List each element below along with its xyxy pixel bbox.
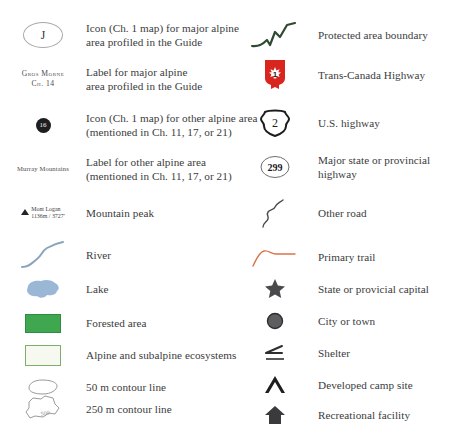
state-highway-circle-icon: 299 xyxy=(232,150,318,184)
legend-label-line: Forested area xyxy=(86,316,147,330)
legend-label-line: Trans-Canada Highway xyxy=(318,68,425,82)
legend-label: State or provicial capital xyxy=(318,282,433,296)
legend-label: Alpine and subalpine ecosystems xyxy=(86,348,240,362)
legend-label: Mountain peak xyxy=(86,206,158,220)
trans-canada-shield-icon: 1 xyxy=(232,58,318,92)
legend-row-river: River xyxy=(0,238,232,272)
legend-row-campsite: Developed camp site xyxy=(232,368,464,402)
other-alpine-dot-shape: 16 xyxy=(36,118,51,133)
legend-label-line: City or town xyxy=(318,314,375,328)
other-alpine-dot-number: 16 xyxy=(40,122,47,129)
legend-label-line: Lake xyxy=(86,282,109,296)
us-highway-route-number: 2 xyxy=(272,116,278,130)
forested-area-swatch xyxy=(0,306,86,340)
legend-left-column: J Icon (Ch. 1 map) for major alpine area… xyxy=(0,0,232,435)
recreational-facility-icon xyxy=(232,398,318,432)
other-road-line-icon xyxy=(232,196,318,230)
legend-row-shelter: Shelter xyxy=(232,336,464,370)
legend-label: River xyxy=(86,248,115,262)
contour-250m-value: 500 xyxy=(40,410,50,417)
lake-shape-icon xyxy=(0,272,86,306)
mountain-peak-elevation: 1136m / 3727' xyxy=(31,213,65,220)
forested-area-color-box xyxy=(25,314,61,333)
trans-canada-route-number: 1 xyxy=(273,70,278,79)
legend-label: Label for major alpine area profiled in … xyxy=(86,65,206,93)
other-alpine-label-text: Murray Mountains xyxy=(17,165,69,173)
legend-label-line: 250 m contour line xyxy=(86,402,172,416)
legend-right-column: Protected area boundary 1 Trans-Canada H… xyxy=(232,0,464,435)
major-alpine-label-text: Gros Morne Ch. 14 xyxy=(22,69,64,88)
legend-label: City or town xyxy=(318,314,379,328)
other-alpine-dot-icon: 16 xyxy=(0,108,86,142)
legend-label-line: U.S. highway xyxy=(318,116,380,130)
legend-row-other-alpine-label: Murray Mountains Label for other alpine … xyxy=(0,152,232,186)
legend-row-lake: Lake xyxy=(0,272,232,306)
mountain-peak-name: Mont Logan xyxy=(31,206,65,213)
alpine-ecosystem-swatch xyxy=(0,338,86,372)
map-legend: J Icon (Ch. 1 map) for major alpine area… xyxy=(0,0,464,435)
legend-label-line: Major state or provincial xyxy=(318,153,430,167)
legend-row-forested-area: Forested area xyxy=(0,306,232,340)
river-line-icon xyxy=(0,238,86,272)
legend-label-line: Developed camp site xyxy=(318,378,413,392)
legend-row-other-road: Other road xyxy=(232,196,464,230)
us-highway-shield-icon: 2 xyxy=(232,106,318,140)
legend-label-line: area profiled in the Guide xyxy=(86,35,239,49)
legend-label: Other road xyxy=(318,206,371,220)
campsite-icon xyxy=(232,368,318,402)
legend-label-line: (mentioned in Ch. 11, 17, or 21) xyxy=(86,169,232,183)
legend-row-trans-canada-highway: 1 Trans-Canada Highway xyxy=(232,58,464,92)
legend-label-line: Shelter xyxy=(318,346,350,360)
state-highway-route-number: 299 xyxy=(268,162,283,173)
legend-label-line: highway xyxy=(318,167,430,181)
legend-row-city: City or town xyxy=(232,304,464,338)
capital-star-icon xyxy=(232,272,318,306)
legend-label: U.S. highway xyxy=(318,116,384,130)
major-alpine-label: Gros Morne Ch. 14 xyxy=(0,62,86,96)
mountain-peak-icon: Mont Logan 1136m / 3727' xyxy=(0,196,86,230)
legend-label-line: Other road xyxy=(318,206,367,220)
legend-label-line: area profiled in the Guide xyxy=(86,79,202,93)
legend-label: Protected area boundary xyxy=(318,28,432,42)
legend-row-us-highway: 2 U.S. highway xyxy=(232,106,464,140)
mountain-peak-group: Mont Logan 1136m / 3727' xyxy=(21,206,65,220)
legend-label-line: Primary trail xyxy=(318,250,376,264)
legend-label: Trans-Canada Highway xyxy=(318,68,429,82)
legend-row-major-alpine-icon: J Icon (Ch. 1 map) for major alpine area… xyxy=(0,18,232,52)
legend-label-line: Protected area boundary xyxy=(318,28,428,42)
legend-label-line: Mountain peak xyxy=(86,206,154,220)
other-alpine-label: Murray Mountains xyxy=(0,152,86,186)
legend-row-alpine-ecosystems: Alpine and subalpine ecosystems xyxy=(0,338,232,372)
major-alpine-label-chapter: Ch. 14 xyxy=(22,79,64,89)
legend-label-line: Label for major alpine xyxy=(86,65,202,79)
major-alpine-circle-shape: J xyxy=(23,22,63,48)
shelter-icon xyxy=(232,336,318,370)
legend-label: Major state or provincial highway xyxy=(318,153,434,181)
legend-label: Lake xyxy=(86,282,113,296)
legend-label: Primary trail xyxy=(318,250,380,264)
legend-label-line: Alpine and subalpine ecosystems xyxy=(86,348,236,362)
legend-label: Developed camp site xyxy=(318,378,417,392)
legend-label: Recreational facility xyxy=(318,408,414,422)
protected-boundary-line-icon xyxy=(232,18,318,52)
alpine-ecosystem-color-box xyxy=(25,345,61,366)
legend-row-state-highway: 299 Major state or provincial highway xyxy=(232,150,464,184)
legend-label-line: Recreational facility xyxy=(318,408,410,422)
legend-label: Icon (Ch. 1 map) for major alpine area p… xyxy=(86,21,243,49)
legend-row-capital: State or provicial capital xyxy=(232,272,464,306)
major-alpine-label-name: Gros Morne xyxy=(22,69,64,79)
legend-row-contour-250m: 500 250 m contour line xyxy=(0,392,232,426)
legend-label-line: River xyxy=(86,248,111,262)
legend-row-major-alpine-label: Gros Morne Ch. 14 Label for major alpine… xyxy=(0,62,232,96)
legend-label-line: State or provicial capital xyxy=(318,282,429,296)
legend-label: 250 m contour line xyxy=(86,402,176,416)
legend-label-line: Icon (Ch. 1 map) for major alpine xyxy=(86,21,239,35)
city-dot-icon xyxy=(232,304,318,338)
mountain-peak-triangle-icon xyxy=(21,209,29,215)
major-alpine-circle-letter: J xyxy=(41,29,45,41)
major-alpine-circle-icon: J xyxy=(0,18,86,52)
legend-row-other-alpine-icon: 16 Icon (Ch. 1 map) for other alpine are… xyxy=(0,108,232,142)
legend-label: Shelter xyxy=(318,346,354,360)
legend-row-protected-boundary: Protected area boundary xyxy=(232,18,464,52)
legend-label-line: Label for other alpine area xyxy=(86,155,232,169)
